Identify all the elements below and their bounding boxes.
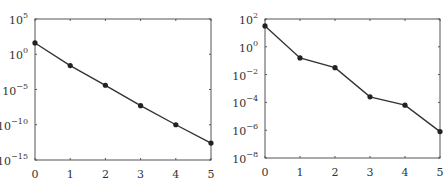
x-tick-label: 0	[262, 166, 269, 179]
data-point-marker	[208, 140, 213, 145]
x-tick-label: 1	[297, 166, 304, 179]
left-plot: 01234510510010−510−1010−15	[0, 11, 215, 181]
x-tick-label: 5	[437, 166, 444, 179]
y-tick-label: 10−8	[232, 150, 258, 166]
data-point-marker	[332, 65, 337, 70]
x-tick-label: 2	[102, 168, 109, 181]
x-tick-label: 2	[332, 166, 339, 179]
x-tick-label: 3	[137, 168, 144, 181]
y-tick-label: 105	[9, 11, 28, 27]
y-tick-label: 10−4	[232, 94, 258, 110]
charts-figure: 01234510510010−510−1010−15 0123451021001…	[0, 0, 444, 187]
data-point-marker	[32, 40, 37, 45]
data-point-marker	[367, 94, 372, 99]
y-tick-label: 10−5	[2, 82, 28, 98]
data-point-marker	[103, 83, 108, 88]
data-point-marker	[173, 122, 178, 127]
y-tick-label: 102	[239, 11, 258, 27]
x-tick-label: 3	[367, 166, 374, 179]
right-plot: 01234510210010−210−410−610−8	[232, 11, 443, 179]
data-point-marker	[402, 103, 407, 108]
data-line	[35, 43, 211, 143]
data-point-marker	[437, 129, 442, 134]
y-tick-label: 10−2	[232, 67, 258, 83]
data-point-marker	[297, 55, 302, 60]
data-point-marker	[262, 23, 267, 28]
data-point-marker	[68, 63, 73, 68]
data-line	[265, 26, 440, 132]
y-tick-label: 100	[239, 39, 258, 55]
y-tick-label: 10−15	[0, 152, 28, 168]
x-tick-label: 1	[67, 168, 74, 181]
x-tick-label: 4	[402, 166, 409, 179]
y-tick-label: 10−10	[0, 117, 28, 133]
plot-frame	[35, 19, 211, 160]
data-point-marker	[138, 103, 143, 108]
plot-frame	[265, 19, 440, 158]
y-tick-label: 100	[9, 46, 28, 62]
x-tick-label: 0	[32, 168, 39, 181]
x-tick-label: 5	[208, 168, 215, 181]
x-tick-label: 4	[172, 168, 179, 181]
y-tick-label: 10−6	[232, 122, 258, 138]
